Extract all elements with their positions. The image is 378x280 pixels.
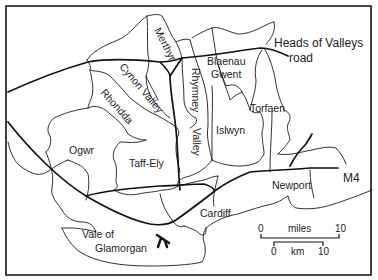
scale-miles-start: 0 [258,223,264,234]
a470-trunk-road [160,62,180,190]
label-glamorgan: Glamorgan [95,242,147,254]
label-gwent: Gwent [211,68,241,80]
label-cardiff: Cardiff [200,207,231,219]
scale-miles-end: 10 [335,223,347,234]
label-valley: Valley [191,128,203,157]
label-torfaen: Torfaen [250,102,285,114]
scale-bar: 0 miles 10 0 km 10 [258,223,347,257]
label-heads-of-valleys: Heads of Valleys [274,36,363,50]
label-merthyr: Merthyr [152,25,179,63]
label-ogwr: Ogwr [69,144,95,156]
scale-km-end: 10 [318,246,330,257]
airplane-icon [157,235,169,247]
m4-motorway [8,122,338,225]
label-vale-of: Vale of [82,228,114,240]
label-m4: M4 [343,171,360,185]
scale-km-start: 0 [271,246,277,257]
scale-miles-bar [261,234,339,238]
label-newport: Newport [272,179,311,191]
label-rhymney: Rhymney [190,68,202,113]
south-wales-district-map: Merthyr Cynon Valley Rhondda Rhymney Val… [0,0,378,280]
scale-km-label: km [291,246,304,257]
label-islwyn: Islwyn [216,124,245,136]
label-blaenau: Blaenau [207,55,246,67]
district-boundaries [8,15,372,267]
scale-miles-label: miles [288,223,311,234]
label-road: road [289,51,313,65]
road-labels: Heads of Valleys road M4 [274,36,363,185]
label-taff-ely: Taff-Ely [129,157,165,169]
